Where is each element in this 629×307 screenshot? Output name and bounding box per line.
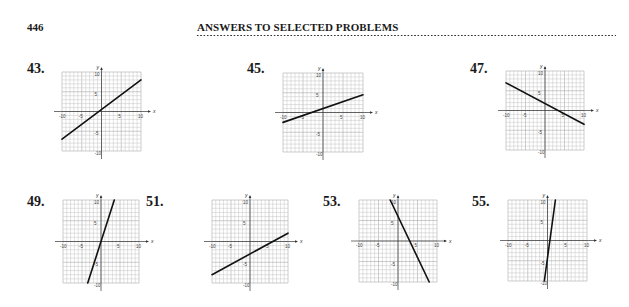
x-tick-label: -10 [503, 113, 510, 118]
x-tick-label: 5 [564, 243, 567, 248]
y-tick-label: -5 [95, 131, 99, 136]
problem-number: 53. [323, 194, 341, 210]
x-tick-label: -10 [209, 244, 216, 249]
x-arrow-icon [370, 111, 373, 114]
graph-47: xy-10-5510105-5-10 [506, 71, 584, 150]
x-tick-label: -10 [505, 243, 512, 248]
x-tick-label: 5 [340, 115, 343, 120]
x-arrow-icon [591, 109, 594, 112]
y-arrow-icon [544, 66, 547, 69]
x-arrow-icon [295, 240, 298, 243]
x-tick-label: -5 [79, 114, 83, 119]
y-arrow-icon [100, 67, 103, 70]
y-tick-label: 10 [541, 200, 547, 205]
y-axis-label: y [392, 192, 396, 198]
problem-number: 51. [146, 194, 164, 210]
y-arrow-icon [100, 195, 103, 198]
y-tick-label: 5 [316, 93, 319, 98]
y-arrow-icon [397, 195, 400, 198]
problem-number: 55. [472, 194, 490, 210]
x-tick-label: -5 [523, 113, 527, 118]
y-tick-label: 10 [94, 200, 100, 205]
x-axis-label: x [150, 238, 154, 244]
y-tick-label: 10 [95, 72, 101, 77]
x-arrow-icon [148, 110, 151, 113]
x-tick-label: -10 [280, 115, 287, 120]
x-tick-label: 10 [136, 244, 142, 249]
x-tick-label: 5 [415, 243, 418, 248]
y-tick-label: 5 [95, 92, 98, 97]
y-arrow-icon [546, 195, 549, 198]
y-tick-label: 10 [538, 71, 544, 76]
graph-53: xy-10-5510105-5-10 [359, 200, 437, 282]
y-tick-label: -5 [538, 130, 542, 135]
x-tick-label: -5 [79, 244, 83, 249]
x-tick-label: -10 [356, 243, 363, 248]
y-tick-label: -10 [95, 151, 102, 156]
x-tick-label: 10 [360, 115, 366, 120]
x-axis-label: x [299, 238, 303, 244]
graph-svg: xy-10-5510105-5-10 [359, 200, 437, 282]
y-axis-label: y [317, 65, 321, 71]
y-axis-label: y [539, 63, 543, 69]
x-axis-label: x [595, 107, 599, 113]
graph-svg: xy-10-5510105-5-10 [63, 200, 139, 283]
y-tick-label: -10 [391, 282, 398, 287]
graph-svg: xy-10-5510105-5-10 [62, 72, 141, 151]
y-axis-label: y [542, 192, 546, 198]
x-tick-label: -5 [376, 243, 380, 248]
x-tick-label: 10 [138, 114, 144, 119]
y-tick-label: -5 [316, 132, 320, 137]
y-tick-label: -10 [243, 283, 250, 288]
x-tick-label: 5 [118, 114, 121, 119]
y-tick-label: -5 [541, 261, 545, 266]
page-number: 446 [27, 21, 44, 33]
x-axis-label: x [598, 237, 602, 243]
y-tick-label: 10 [316, 73, 322, 78]
x-tick-label: -10 [60, 244, 67, 249]
y-axis-label: y [96, 64, 100, 70]
problem-number: 49. [27, 194, 45, 210]
y-tick-label: 5 [538, 91, 541, 96]
x-axis-label: x [448, 238, 452, 244]
dotted-rule [196, 34, 616, 37]
graph-55: xy-10-5510105-5-10 [508, 200, 587, 281]
y-arrow-icon [249, 195, 252, 198]
graph-svg: xy-10-5510105-5-10 [506, 71, 584, 150]
graph-svg: xy-10-5510105-5-10 [283, 73, 363, 152]
x-tick-label: -5 [228, 244, 232, 249]
x-axis-label: x [374, 109, 378, 115]
x-tick-label: 10 [434, 243, 440, 248]
y-axis-label: y [95, 192, 99, 198]
problem-number: 47. [470, 61, 488, 77]
graph-svg: xy-10-5510105-5-10 [508, 200, 587, 281]
x-tick-label: 10 [285, 244, 291, 249]
x-tick-label: 10 [581, 113, 587, 118]
graph-43: xy-10-5510105-5-10 [62, 72, 141, 151]
y-tick-label: -10 [94, 283, 101, 288]
y-tick-label: -10 [538, 150, 545, 155]
graph-49: xy-10-5510105-5-10 [63, 200, 139, 283]
y-tick-label: -10 [541, 281, 548, 286]
x-tick-label: -5 [525, 243, 529, 248]
y-tick-label: -10 [316, 152, 323, 157]
running-head: ANSWERS TO SELECTED PROBLEMS [197, 21, 398, 33]
graph-51: xy-10-5510105-5-10 [212, 200, 288, 283]
x-axis-label: x [152, 108, 156, 114]
x-tick-label: -10 [59, 114, 66, 119]
y-arrow-icon [322, 68, 325, 71]
x-tick-label: 5 [117, 244, 120, 249]
y-tick-label: -5 [243, 262, 247, 267]
x-tick-label: 10 [584, 243, 590, 248]
x-arrow-icon [444, 240, 447, 243]
problem-number: 43. [27, 61, 45, 77]
problem-number: 45. [247, 61, 265, 77]
graph-45: xy-10-5510105-5-10 [283, 73, 363, 152]
y-tick-label: 10 [243, 200, 249, 205]
x-arrow-icon [594, 239, 597, 242]
y-tick-label: -5 [391, 262, 395, 267]
x-arrow-icon [146, 240, 149, 243]
y-axis-label: y [244, 192, 248, 198]
graph-svg: xy-10-5510105-5-10 [212, 200, 288, 283]
